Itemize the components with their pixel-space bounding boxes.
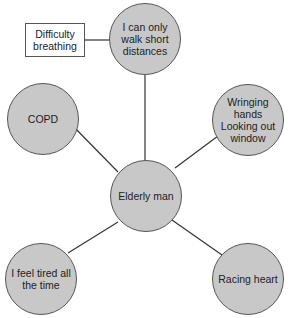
center-label: Elderly man [118,190,173,202]
node-label: Wringing hands Looking out window [221,96,275,144]
node-racing-heart: Racing heart [212,243,284,315]
node-feel-tired: I feel tired all the time [5,243,77,315]
node-label: I feel tired all the time [11,267,71,291]
node-label: COPD [28,113,58,125]
node-walk-short-distances: I can only walk short distances [109,3,181,75]
node-label: I can only walk short distances [121,21,168,57]
node-wringing-hands: Wringing hands Looking out window [212,84,284,156]
node-elderly-man-center: Elderly man [110,160,182,232]
difficulty-breathing-label: Difficulty breathing [33,28,77,52]
node-copd: COPD [7,83,79,155]
node-label: Racing heart [218,273,278,285]
difficulty-breathing-box: Difficulty breathing [25,23,85,57]
